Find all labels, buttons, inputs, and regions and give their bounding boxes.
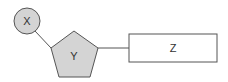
node-z-label: Z (170, 42, 177, 54)
node-y-label: Y (70, 50, 78, 62)
node-y: Y (51, 31, 98, 77)
node-z: Z (129, 34, 217, 62)
edge-x-y (35, 31, 51, 48)
node-x-label: X (23, 15, 31, 27)
node-x: X (14, 8, 40, 34)
diagram-canvas: X Y Z (0, 0, 228, 82)
